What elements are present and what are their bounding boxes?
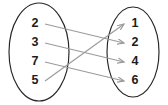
- domain-element-4: 5: [32, 73, 39, 87]
- codomain-element-2: 2: [132, 35, 139, 49]
- domain-element-1: 2: [32, 16, 39, 30]
- codomain-element-3: 4: [132, 54, 139, 68]
- codomain-element-4: 6: [132, 73, 139, 87]
- domain-element-3: 7: [32, 54, 39, 68]
- arrow-7-to-6: [45, 62, 124, 81]
- arrow-5-to-1: [45, 24, 124, 81]
- arrow-2-to-2: [45, 24, 124, 43]
- mapping-diagram: 2 3 7 5 1 2 4 6: [0, 0, 168, 105]
- left-set-oval: [9, 3, 69, 101]
- codomain-element-1: 1: [132, 16, 139, 30]
- mapping-diagram-canvas: 2 3 7 5 1 2 4 6: [0, 0, 168, 105]
- domain-element-2: 3: [32, 35, 39, 49]
